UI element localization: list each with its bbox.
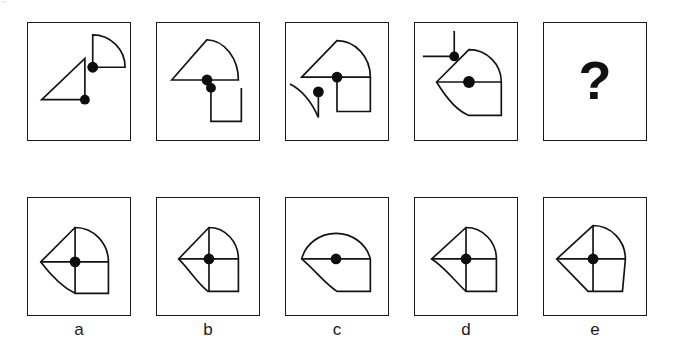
option-figure-c bbox=[286, 198, 388, 315]
option-figure-a bbox=[28, 198, 130, 315]
dot-marker bbox=[461, 254, 472, 265]
problem-figure-2 bbox=[157, 23, 259, 140]
dot-marker bbox=[588, 254, 599, 265]
problem-panel-1[interactable] bbox=[27, 22, 131, 141]
problem-figure-3 bbox=[286, 23, 388, 140]
option-figure-e bbox=[544, 198, 646, 315]
dot-marker bbox=[331, 254, 342, 265]
problem-panel-4[interactable] bbox=[414, 22, 518, 141]
square-shape bbox=[337, 77, 370, 111]
triangle-fan-merge bbox=[302, 41, 371, 77]
option-panel-d[interactable] bbox=[414, 197, 518, 316]
dot-marker bbox=[204, 254, 215, 265]
option-figure-b bbox=[157, 198, 259, 315]
option-label-b: b bbox=[188, 320, 228, 340]
fan-shape bbox=[93, 35, 125, 67]
option-panel-a[interactable] bbox=[27, 197, 131, 316]
option-label-a: a bbox=[59, 320, 99, 340]
option-labels: a b c d e bbox=[0, 320, 688, 346]
option-label-d: d bbox=[446, 320, 486, 340]
dot-marker bbox=[80, 95, 90, 105]
problem-figure-4 bbox=[415, 23, 517, 140]
dot-marker bbox=[463, 76, 475, 88]
problem-sequence: ? bbox=[0, 22, 688, 142]
option-panel-b[interactable] bbox=[156, 197, 260, 316]
problem-panel-3[interactable] bbox=[285, 22, 389, 141]
triangle-fan-merge bbox=[172, 40, 239, 80]
triangle-shape bbox=[42, 58, 85, 99]
dot-marker bbox=[449, 52, 459, 62]
answer-options bbox=[0, 197, 688, 316]
option-panel-c[interactable] bbox=[285, 197, 389, 316]
corner-mark: '' bbox=[2, 0, 7, 9]
option-figure-d bbox=[415, 198, 517, 315]
dot-marker bbox=[87, 62, 98, 73]
dot-marker bbox=[332, 72, 343, 83]
problem-panel-2[interactable] bbox=[156, 22, 260, 141]
option-label-e: e bbox=[575, 320, 615, 340]
u-bracket-shape bbox=[211, 88, 241, 121]
option-panel-e[interactable] bbox=[543, 197, 647, 316]
dot-marker bbox=[70, 257, 81, 268]
option-label-c: c bbox=[317, 320, 357, 340]
problem-figure-1 bbox=[28, 23, 130, 140]
question-mark: ? bbox=[544, 23, 646, 140]
dot-marker bbox=[206, 83, 216, 93]
dot-marker bbox=[313, 86, 324, 97]
problem-panel-5[interactable]: ? bbox=[543, 22, 647, 141]
visual-analogy-puzzle: '' bbox=[0, 0, 688, 361]
